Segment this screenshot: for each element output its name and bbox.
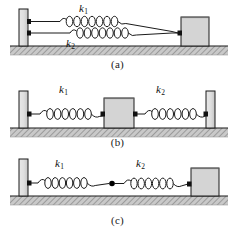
block-anchor-left [101, 112, 106, 117]
k2-subscript: 2 [141, 162, 145, 171]
spring-constant-label-k1: k1 [79, 3, 88, 14]
ground [10, 196, 228, 205]
spring-k2 [114, 178, 188, 189]
spring-k1 [30, 109, 109, 120]
panel-c: k1 k2 (c) [0, 150, 235, 236]
k1-subscript: 1 [84, 7, 88, 16]
panel-a-caption: (a) [0, 58, 235, 70]
block-anchor-right [133, 112, 138, 117]
spring-constant-label-k2: k2 [66, 38, 75, 49]
k2-subscript: 2 [71, 42, 75, 51]
spring-constant-label-k1: k1 [59, 84, 68, 95]
left-wall-anchor [27, 112, 32, 117]
k1-subscript: 1 [64, 88, 68, 97]
block-anchor [178, 31, 183, 36]
spring-constant-label-k2: k2 [136, 158, 145, 169]
block-mass [104, 98, 134, 128]
right-wall [206, 91, 215, 128]
panel-c-caption: (c) [0, 214, 235, 226]
k2-subscript: 2 [161, 88, 165, 97]
spring-constant-label-k2: k2 [156, 84, 165, 95]
k1-subscript: 1 [60, 162, 64, 171]
block-mass [181, 17, 209, 46]
block-anchor [187, 182, 192, 187]
block-mass [191, 168, 219, 196]
right-wall-anchor [204, 112, 209, 117]
wall-anchor-upper [27, 19, 31, 24]
wall-anchor-lower [27, 31, 31, 36]
ground [10, 46, 228, 55]
panel-a: k1 k2 (a) [0, 0, 235, 78]
spring-constant-label-k1: k1 [55, 158, 64, 169]
spring-k2 [28, 28, 172, 38]
spring-convergence-link [172, 32, 178, 34]
left-wall [19, 91, 28, 128]
left-wall [19, 9, 28, 46]
wall-anchor [27, 181, 32, 186]
series-junction-node [109, 181, 115, 187]
spring-k1 [30, 178, 109, 189]
panel-b-caption: (b) [0, 136, 235, 148]
left-wall [19, 159, 28, 196]
panel-b: k1 k2 (b) [0, 78, 235, 150]
spring-system-figure: k1 k2 (a) [0, 0, 235, 236]
spring-k2 [137, 109, 208, 120]
